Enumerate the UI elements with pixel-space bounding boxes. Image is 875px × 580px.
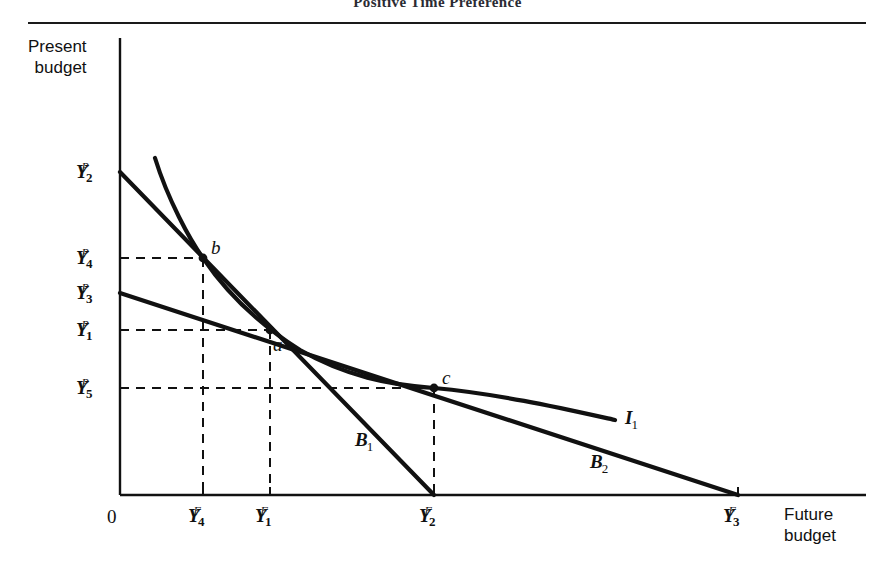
curve-label-i1: I1 (625, 408, 638, 431)
figure-root: Positive Time Preference P (0, 0, 875, 580)
point-label-c: c (442, 368, 450, 387)
y-tick-y1p-sub: 1 (86, 328, 93, 343)
x-axis-title: Future budget (784, 504, 836, 547)
budget-line-2 (120, 293, 738, 495)
y-tick-y2p-sub: 2 (86, 170, 93, 185)
y-axis-title: Present budget (28, 36, 87, 79)
x-tick-y1f-sub: 1 (265, 514, 272, 529)
curve-label-b1: B1 (355, 430, 373, 453)
plot-canvas (0, 0, 875, 580)
y-tick-label-y3p: YP3 (76, 282, 92, 305)
curve-b1-base: B (355, 429, 368, 450)
x-tick-y4f-sub: 4 (198, 514, 205, 529)
y-tick-label-y4p: YP4 (76, 247, 92, 270)
y-tick-label-y1p: YP1 (76, 319, 92, 342)
curve-b1-sub: 1 (367, 439, 374, 454)
y-tick-y4p-sub: 4 (86, 256, 93, 271)
x-tick-label-y2f: YF2 (419, 505, 435, 528)
x-tick-y2f-sub: 2 (429, 514, 436, 529)
origin-label: 0 (107, 507, 117, 526)
point-label-b: b (211, 238, 221, 257)
y-tick-label-y2p: YP2 (76, 161, 92, 184)
curve-i1-sub: 1 (631, 417, 638, 432)
dashed-guides (120, 258, 434, 495)
curve-b2-base: B (590, 451, 603, 472)
point-label-a: a (273, 335, 283, 354)
x-axis-title-line1: Future (784, 504, 836, 525)
y-tick-label-y5p: YP5 (76, 377, 92, 400)
point-c-marker (430, 384, 439, 393)
curve-label-b2: B2 (590, 452, 608, 475)
x-tick-label-y1f: YF1 (255, 505, 271, 528)
x-tick-label-y4f: YF4 (188, 505, 204, 528)
y-tick-y3p-sub: 3 (86, 291, 93, 306)
point-b-marker (199, 254, 208, 263)
x-tick-y3f-sub: 3 (733, 514, 740, 529)
y-axis-title-line2: budget (28, 57, 87, 78)
curve-b2-sub: 2 (602, 461, 609, 476)
y-axis-title-line1: Present (28, 36, 87, 57)
indifference-curve-1 (155, 158, 615, 420)
x-tick-label-y3f: YF3 (723, 505, 739, 528)
y-tick-y5p-sub: 5 (86, 386, 93, 401)
x-axis-title-line2: budget (784, 525, 836, 546)
